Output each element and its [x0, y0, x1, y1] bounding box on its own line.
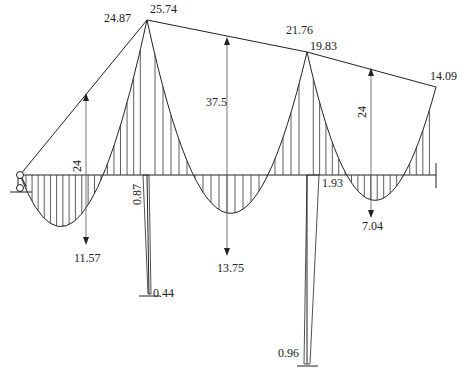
column-1 — [143, 175, 151, 294]
span3-arrow — [368, 68, 374, 218]
label-span2-height: 37.5 — [206, 95, 227, 109]
label-span3-height: 24 — [355, 106, 369, 118]
label-col1-bottom: 0.44 — [153, 286, 174, 300]
bending-moment-diagram: 24.87 25.74 21.76 19.83 14.09 24 37.5 24… — [0, 0, 463, 377]
label-right-end: 14.09 — [430, 69, 457, 83]
label-col2-top: 1.93 — [322, 176, 343, 190]
label-left-joint-left: 24.87 — [104, 11, 131, 25]
span1-curve — [20, 20, 147, 227]
label-middle-joint-left: 21.76 — [286, 23, 313, 37]
label-middle-joint-right: 19.83 — [310, 39, 337, 53]
span2-arrow — [224, 37, 230, 256]
label-span1-height: 24 — [70, 160, 84, 172]
label-left-joint-top: 25.74 — [150, 2, 177, 16]
label-span2-sagging: 13.75 — [217, 261, 244, 275]
label-span1-sagging: 11.57 — [74, 251, 101, 265]
label-col1-top: 0.87 — [130, 184, 144, 205]
label-col2-bottom: 0.96 — [278, 346, 299, 360]
column-2 — [304, 175, 319, 364]
hatching — [26, 50, 429, 227]
label-span3-sagging: 7.04 — [362, 219, 383, 233]
